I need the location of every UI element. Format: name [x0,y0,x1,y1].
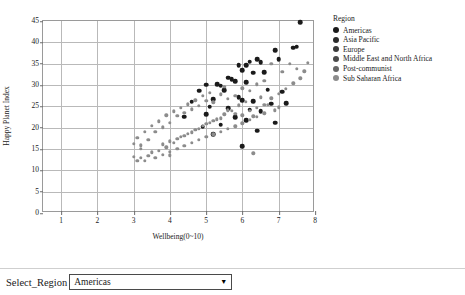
scatter-point [143,159,146,162]
y-tick-label: 40 [32,39,44,47]
scatter-point [262,70,267,75]
scatter-point [226,97,229,100]
scatter-point [179,135,182,138]
scatter-point [208,104,213,109]
legend-swatch-icon [333,75,339,81]
scatter-point [190,108,193,111]
chart-area: Happy Planet Index Wellbeing(0~10) 05101… [0,0,330,268]
scatter-point [263,79,266,82]
scatter-point [197,138,200,141]
scatter-point [157,120,160,123]
scatter-point [233,79,238,84]
y-axis-label: Happy Planet Index [2,86,11,146]
region-select-value: Americas [74,277,220,287]
select-region-label: Select_Region [6,277,67,288]
legend-item-sub-saharan-africa[interactable]: Sub Saharan Africa [333,73,465,83]
y-tick-label: 5 [35,188,43,196]
scatter-point [281,70,284,73]
scatter-point [255,128,260,133]
gridline-vertical [279,21,280,211]
scatter-point [299,76,302,79]
plot-region: 051015202530354045 12345678 [42,20,314,212]
legend-item-americas[interactable]: Americas [333,26,465,36]
y-tick-label: 10 [32,167,44,175]
legend-item-label: Asia Pacific [343,36,379,44]
x-tick-label: 7 [277,211,281,225]
legend-item-europe[interactable]: Europe [333,45,465,55]
legend-title: Region [333,14,465,23]
legend-swatch-icon [333,37,339,43]
legend-item-middle-east-and-north-africa[interactable]: Middle East and North Africa [333,54,465,64]
scatter-point [194,99,197,102]
scatter-point [273,48,278,53]
scatter-point [161,153,164,156]
gridline-horizontal [43,42,313,43]
scatter-point [240,68,245,73]
scatter-point [186,132,189,135]
legend-swatch-icon [333,56,339,62]
scatter-point [241,114,244,117]
scatter-point [204,135,207,138]
legend-item-label: Post-communist [343,65,392,73]
scatter-point [146,154,149,157]
scatter-point [255,115,258,118]
legend-swatch-icon [333,46,339,52]
legend-item-asia-pacific[interactable]: Asia Pacific [333,35,465,45]
scatter-point [233,115,238,120]
scatter-point [241,122,244,125]
scatter-point [146,138,149,141]
scatter-point [165,114,168,117]
scatter-point [295,67,298,70]
scatter-point [259,96,262,99]
y-tick-label: 45 [32,17,44,25]
scatter-point [204,112,209,117]
scatter-point [284,101,289,106]
scatter-point [240,144,245,149]
scatter-point [139,147,142,150]
x-tick-label: 1 [59,211,63,225]
scatter-point [204,82,209,87]
scatter-point [226,127,229,130]
x-tick-label: 5 [204,211,208,225]
scatter-point [270,97,273,100]
scatter-point [179,106,182,109]
scatter-point [248,118,251,121]
scatter-point [248,89,251,92]
y-tick-label: 20 [32,124,44,132]
scatter-point [288,62,291,65]
legend-item-label: Americas [343,27,372,35]
scatter-point [219,130,222,133]
scatter-point [183,144,186,147]
scatter-point [143,130,146,133]
scatter-point [136,136,139,139]
region-select-dropdown[interactable]: Americas ▼ [69,274,232,290]
scatter-point [222,88,227,93]
scatter-point [132,155,135,158]
legend-swatch-icon [333,66,339,72]
scatter-point [204,99,207,102]
scatter-point [157,149,160,152]
y-tick-label: 15 [32,145,44,153]
scatter-point [251,70,256,75]
scatter-point [197,88,202,93]
chevron-down-icon: ▼ [220,279,227,286]
legend-item-post-communist[interactable]: Post-communist [333,64,465,74]
scatter-point [302,70,305,73]
scatter-point [219,117,222,120]
scatter-point [277,105,280,108]
scatter-point [172,110,175,113]
x-tick-label: 8 [313,211,317,225]
gridline-vertical [170,21,171,211]
scatter-point [215,117,218,120]
scatter-point [298,20,303,25]
scatter-point [244,63,249,68]
scatter-point [223,113,226,116]
scatter-point [197,127,200,130]
scatter-point [208,91,211,94]
x-tick-label: 3 [132,211,136,225]
happy-planet-index-scatter-app: Happy Planet Index Wellbeing(0~10) 05101… [0,0,465,295]
scatter-point [168,154,171,157]
scatter-point [280,90,285,95]
scatter-point [190,131,193,134]
scatter-point [273,108,276,111]
